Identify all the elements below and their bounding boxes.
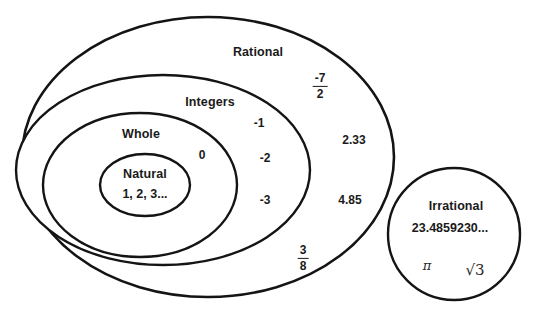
fraction-numerator: 3 xyxy=(298,244,309,258)
negative-three-label: -3 xyxy=(260,194,271,206)
decimal-2-33-label: 2.33 xyxy=(342,134,365,146)
natural-examples-label: 1, 2, 3... xyxy=(122,188,167,201)
fraction-negative-seven-halves: -7 2 xyxy=(313,72,328,100)
whole-set-label: Whole xyxy=(122,128,160,141)
rational-set-label: Rational xyxy=(233,46,283,59)
natural-set-label: Natural xyxy=(123,168,167,181)
fraction-numerator: -7 xyxy=(313,72,328,86)
negative-one-label: -1 xyxy=(254,117,265,129)
decimal-4-85-label: 4.85 xyxy=(338,194,361,206)
irrational-set-label: Irrational xyxy=(429,200,484,213)
negative-two-label: -2 xyxy=(260,152,271,164)
square-root-of-three-symbol: √3 xyxy=(465,261,484,279)
natural-set-ellipse xyxy=(100,154,190,216)
fraction-three-eighths: 3 8 xyxy=(298,244,309,272)
integers-set-label: Integers xyxy=(185,96,234,109)
fraction-denominator: 2 xyxy=(313,86,328,101)
number-sets-venn-diagram: Rational Integers Whole Natural Irration… xyxy=(0,0,540,319)
pi-symbol: π xyxy=(423,258,432,273)
irrational-decimal-label: 23.4859230... xyxy=(412,222,488,235)
fraction-denominator: 8 xyxy=(298,258,309,273)
zero-label: 0 xyxy=(199,149,206,161)
